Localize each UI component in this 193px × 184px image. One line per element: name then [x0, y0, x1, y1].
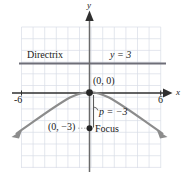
- y-axis-label: y: [87, 1, 91, 10]
- vertex-label: (0, 0): [93, 76, 115, 86]
- y-axis-arrowhead: [85, 11, 93, 22]
- curve-right-arrowhead: [157, 130, 168, 138]
- focus-point-marker: [87, 125, 93, 131]
- x-axis-arrowhead: [163, 89, 173, 98]
- focal-distance-label: p = −3: [99, 107, 128, 117]
- curve-left-arrowhead: [12, 130, 23, 138]
- focus-word-label: Focus: [95, 124, 119, 134]
- graph-canvas: [0, 0, 193, 184]
- focus-coordinate-label: (0, −3): [48, 122, 75, 132]
- directrix-equation-label: y = 3: [110, 50, 131, 60]
- vertex-point-marker: [86, 89, 93, 96]
- directrix-label: Directrix: [27, 50, 63, 60]
- x-axis-label: x: [176, 88, 180, 97]
- parabola-figure: Directrix y = 3 (0, 0) p = −3 (0, −3) Fo…: [0, 0, 193, 184]
- x-tick-label-neg6: -6: [14, 95, 22, 105]
- x-tick-label-6: 6: [158, 95, 163, 105]
